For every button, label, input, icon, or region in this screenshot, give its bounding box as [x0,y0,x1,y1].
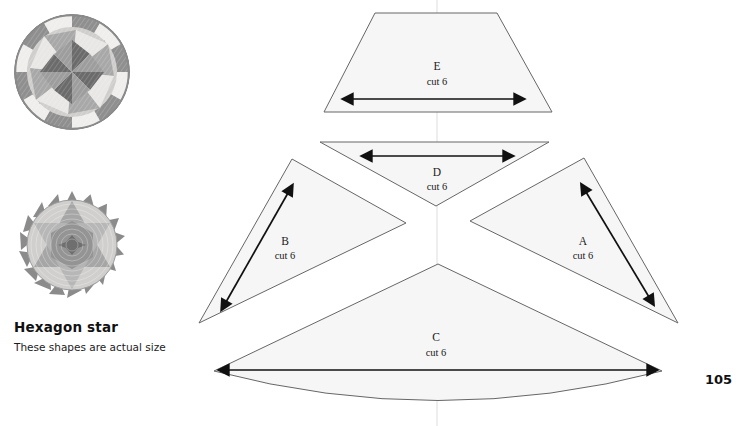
piece-B-label: B [281,235,289,247]
piece-C-label: C [432,331,440,343]
pattern-template-diagram: E cut 6 D cut 6 B cut 6 A cut 6 [0,0,740,426]
piece-A-cut-count: cut 6 [573,250,594,261]
piece-C-cut-count: cut 6 [426,347,447,358]
piece-E-label: E [433,60,440,72]
pattern-page: Hexagon star These shapes are actual siz… [0,0,740,426]
pattern-piece-E[interactable]: E cut 6 [324,13,552,112]
piece-D-cut-count: cut 6 [427,181,448,192]
pattern-piece-C[interactable]: C cut 6 [214,264,662,401]
piece-E-cut-count: cut 6 [427,76,448,87]
piece-A-label: A [579,235,588,247]
piece-D-label: D [433,166,441,178]
piece-B-cut-count: cut 6 [275,250,296,261]
